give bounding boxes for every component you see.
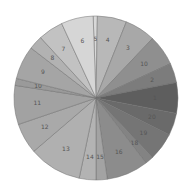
slice-label: 14 <box>86 153 94 160</box>
slice-label: 20 <box>148 113 156 120</box>
slice-label: 7 <box>61 45 65 52</box>
slice-label: 16 <box>115 148 123 155</box>
pie-chart-svg: 5431021201918161514131211109876 <box>0 0 188 194</box>
slice-label: 9 <box>41 68 45 75</box>
slice-label: 4 <box>106 36 110 43</box>
slice-label: 2 <box>150 76 154 83</box>
slice-label: 13 <box>62 145 70 152</box>
slice-label: 8 <box>51 54 55 61</box>
slice-label: 1 <box>153 94 157 101</box>
slice-label: 12 <box>41 123 49 130</box>
slice-label: 10 <box>140 60 148 67</box>
pie-chart: 5431021201918161514131211109876 <box>0 0 188 194</box>
slice-label: 6 <box>80 37 84 44</box>
slice-label: 3 <box>126 44 130 51</box>
slice-label: 11 <box>33 99 41 106</box>
slice-label: 19 <box>140 129 148 136</box>
slice-label: 15 <box>96 153 104 160</box>
